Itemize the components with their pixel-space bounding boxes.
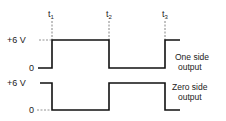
one-side-caption-line2: output <box>178 62 202 72</box>
zero-side-signal <box>40 83 180 110</box>
svg-text:t2: t2 <box>106 9 113 20</box>
zero-side-caption-line2: output <box>178 92 202 102</box>
zero-side-high-label: +6 V <box>7 78 26 88</box>
waveform-zero-side: +6 V 0 Zero side output <box>7 78 208 115</box>
svg-text:t3: t3 <box>162 9 169 20</box>
svg-text:t1: t1 <box>48 9 55 20</box>
t1-subscript: 1 <box>51 14 55 20</box>
time-marker-t1: t1 <box>48 9 55 40</box>
one-side-signal <box>38 40 180 68</box>
t2-subscript: 2 <box>109 14 113 20</box>
one-side-high-label: +6 V <box>7 35 26 45</box>
time-marker-t2: t2 <box>106 9 113 40</box>
t3-subscript: 3 <box>165 14 169 20</box>
waveform-one-side: +6 V 0 One side output <box>7 35 209 73</box>
zero-side-caption-line1: Zero side <box>172 82 208 92</box>
timing-diagram: t1 t2 t3 +6 V 0 One side output +6 V 0 Z… <box>0 0 226 121</box>
one-side-caption-line1: One side <box>175 52 209 62</box>
time-marker-t3: t3 <box>162 9 169 40</box>
one-side-low-label: 0 <box>29 63 34 73</box>
zero-side-low-label: 0 <box>29 105 34 115</box>
